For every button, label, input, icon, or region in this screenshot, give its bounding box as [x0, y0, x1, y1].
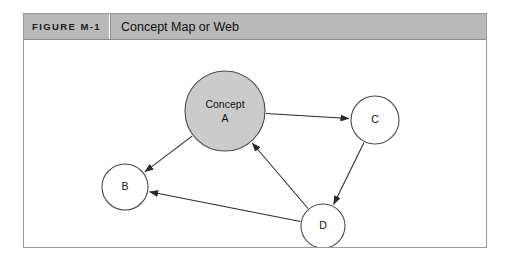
node-layer: ConceptACBD	[102, 71, 399, 247]
node-label-a: Concept	[205, 98, 244, 110]
node-label-b: B	[121, 180, 128, 192]
edge-d-to-b	[150, 192, 301, 222]
edge-a-to-c	[266, 113, 349, 118]
node-a[interactable]: ConceptA	[185, 71, 265, 151]
edge-d-to-a	[252, 143, 308, 209]
node-label-d: D	[319, 219, 327, 231]
concept-map-canvas: ConceptACBD	[24, 40, 486, 247]
concept-map-svg: ConceptACBD	[24, 40, 486, 247]
figure-header: FIGURE M-1 Concept Map or Web	[24, 14, 486, 40]
node-c[interactable]: C	[351, 96, 399, 144]
node-d[interactable]: D	[301, 204, 345, 247]
edge-a-to-b	[145, 136, 192, 172]
figure-number-label: FIGURE M-1	[24, 14, 110, 39]
edge-c-to-d	[334, 142, 364, 204]
node-sublabel-a: A	[221, 112, 228, 124]
node-label-c: C	[371, 113, 379, 125]
figure-caption: Concept Map or Web	[110, 14, 486, 39]
figure-panel: FIGURE M-1 Concept Map or Web ConceptACB…	[23, 13, 487, 248]
node-b[interactable]: B	[102, 164, 148, 210]
